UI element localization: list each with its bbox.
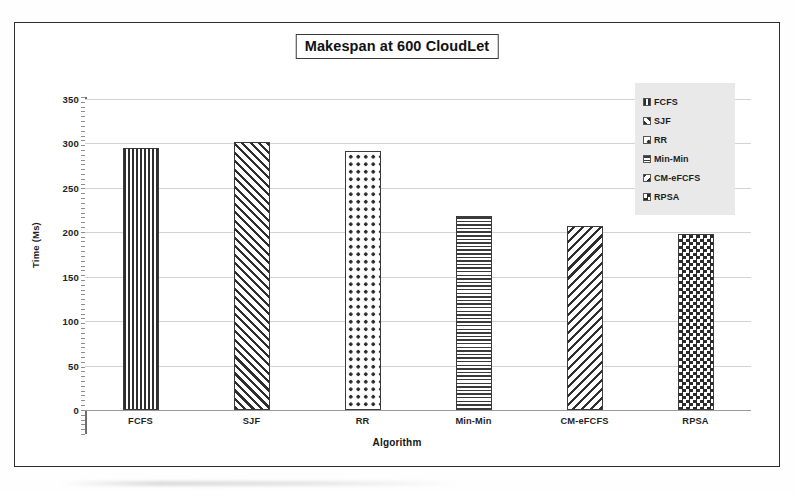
legend-swatch-icon	[643, 136, 651, 144]
y-axis-minor-tick	[81, 107, 85, 108]
x-axis-tick-label: RPSA	[682, 416, 708, 426]
y-axis-minor-tick	[81, 188, 85, 189]
y-axis-minor-tick	[81, 338, 85, 339]
y-axis-minor-tick	[81, 222, 85, 223]
x-axis-title: Algorithm	[372, 437, 421, 448]
y-axis-minor-tick	[81, 434, 85, 435]
y-axis-minor-tick	[81, 328, 85, 329]
legend-swatch-icon	[643, 155, 651, 163]
y-axis-minor-tick	[81, 136, 85, 137]
y-axis-minor-tick	[81, 275, 85, 276]
y-axis-tick-label: 250	[39, 182, 79, 193]
y-axis-minor-tick	[81, 256, 85, 257]
y-axis-minor-tick	[81, 126, 85, 127]
x-axis-tick-label: CM-eFCFS	[560, 416, 608, 426]
y-axis-minor-tick	[81, 343, 85, 344]
y-axis-minor-tick	[81, 290, 85, 291]
legend-item-label: Min-Min	[654, 154, 689, 164]
chart-title-text: Makespan at 600 CloudLet	[305, 38, 490, 54]
y-axis-minor-tick	[81, 309, 85, 310]
y-axis-minor-tick	[81, 386, 85, 387]
y-axis-minor-tick	[81, 266, 85, 267]
y-axis-minor-tick	[81, 131, 85, 132]
y-axis-minor-tick	[81, 232, 85, 233]
y-axis-minor-tick	[81, 160, 85, 161]
legend-item-rr[interactable]: RR	[643, 130, 729, 149]
bar-sjf[interactable]	[234, 142, 270, 410]
bar-rpsa[interactable]	[678, 234, 714, 410]
gridline	[85, 277, 751, 278]
y-axis-minor-tick	[81, 400, 85, 401]
y-axis-minor-tick	[81, 217, 85, 218]
y-axis-minor-tick	[81, 270, 85, 271]
y-axis-minor-tick	[81, 405, 85, 406]
y-axis-minor-tick	[81, 285, 85, 286]
legend-item-rpsa[interactable]: RPSA	[643, 187, 729, 206]
legend-swatch-icon	[643, 193, 651, 201]
y-axis-minor-tick	[81, 294, 85, 295]
y-axis-tick-label: 50	[39, 360, 79, 371]
y-axis-minor-tick	[81, 184, 85, 185]
y-axis-minor-tick	[81, 424, 85, 425]
y-axis-minor-tick	[81, 174, 85, 175]
bar-min-min[interactable]	[456, 216, 492, 410]
legend-item-fcfs[interactable]: FCFS	[643, 92, 729, 111]
y-axis-minor-tick	[81, 429, 85, 430]
x-axis-tick-label: SJF	[243, 416, 261, 426]
x-axis-tick-label: FCFS	[128, 416, 153, 426]
y-axis-minor-tick	[81, 213, 85, 214]
y-axis-minor-tick	[81, 362, 85, 363]
legend-item-label: FCFS	[654, 97, 678, 107]
y-axis-minor-tick	[81, 227, 85, 228]
y-axis-minor-tick	[81, 261, 85, 262]
chart-frame: Makespan at 600 CloudLet Time (Ms) 05010…	[14, 22, 780, 467]
y-axis-tick-label: 350	[39, 94, 79, 105]
y-axis-minor-tick	[81, 241, 85, 242]
y-axis-minor-tick	[81, 155, 85, 156]
x-axis-tick-label: RR	[356, 416, 370, 426]
y-axis-minor-tick	[81, 169, 85, 170]
y-axis-minor-tick	[81, 323, 85, 324]
y-axis-minor-tick	[81, 367, 85, 368]
y-axis-minor-tick	[81, 150, 85, 151]
chart-title: Makespan at 600 CloudLet	[296, 34, 499, 59]
y-axis-minor-tick	[81, 121, 85, 122]
y-axis-minor-tick	[81, 420, 85, 421]
gridline	[85, 366, 751, 367]
y-axis-minor-tick	[81, 376, 85, 377]
y-axis-minor-tick	[81, 237, 85, 238]
y-axis-minor-tick	[81, 314, 85, 315]
x-axis-line	[85, 410, 751, 411]
y-axis-minor-tick	[81, 164, 85, 165]
bar-cm-efcfs[interactable]	[567, 226, 603, 410]
legend-item-sjf[interactable]: SJF	[643, 111, 729, 130]
legend-item-min-min[interactable]: Min-Min	[643, 149, 729, 168]
scan-artifact	[60, 481, 460, 486]
y-axis-minor-tick	[81, 415, 85, 416]
y-axis-minor-tick	[81, 246, 85, 247]
legend-item-label: SJF	[654, 116, 671, 126]
y-axis-minor-tick	[81, 304, 85, 305]
gridline	[85, 232, 751, 233]
y-axis-minor-tick	[81, 371, 85, 372]
bar-rr[interactable]	[345, 151, 381, 410]
y-axis-minor-tick	[81, 102, 85, 103]
y-axis-minor-tick	[81, 280, 85, 281]
y-axis-minor-tick	[81, 381, 85, 382]
y-axis-minor-tick	[81, 203, 85, 204]
gridline	[85, 321, 751, 322]
y-axis-minor-tick	[81, 347, 85, 348]
legend-item-cm-efcfs[interactable]: CM-eFCFS	[643, 168, 729, 187]
bar-fcfs[interactable]	[123, 148, 159, 410]
y-axis-minor-tick	[81, 318, 85, 319]
y-axis-minor-tick	[81, 395, 85, 396]
legend-item-label: RR	[654, 135, 667, 145]
y-axis-tick-label: 0	[39, 405, 79, 416]
legend-swatch-icon	[643, 117, 651, 125]
y-axis-tick-labels: 050100150200250300350	[33, 23, 79, 466]
legend-swatch-icon	[643, 174, 651, 182]
y-axis-minor-tick	[81, 251, 85, 252]
y-axis-tick-label: 150	[39, 271, 79, 282]
y-axis-tick-label: 100	[39, 316, 79, 327]
x-axis-tick-label: Min-Min	[455, 416, 491, 426]
